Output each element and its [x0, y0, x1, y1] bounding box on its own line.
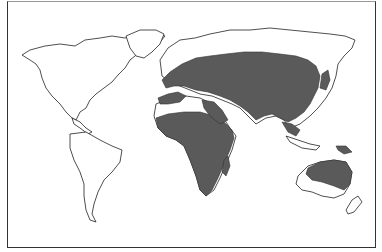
world-map — [0, 0, 382, 252]
central-america — [72, 118, 92, 134]
range-new-guinea — [336, 146, 352, 154]
new-zealand — [346, 196, 362, 214]
range-africa — [156, 112, 234, 196]
south-america — [70, 132, 122, 222]
indonesia — [286, 136, 320, 150]
